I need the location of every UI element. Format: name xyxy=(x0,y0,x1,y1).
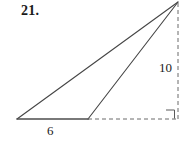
hypotenuse-long-line xyxy=(17,2,178,119)
base-measure-label: 6 xyxy=(47,124,54,137)
problem-number-label: 21. xyxy=(21,4,39,18)
geometry-figure: 21. 10 6 xyxy=(0,0,190,145)
altitude-measure-label: 10 xyxy=(159,61,172,74)
right-angle-marker-icon xyxy=(166,110,175,119)
